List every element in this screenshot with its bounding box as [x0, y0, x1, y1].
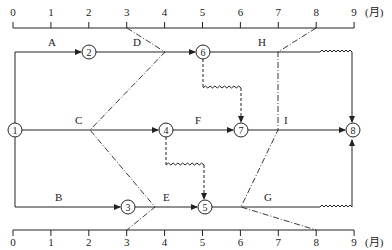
node-label: 2 [87, 47, 92, 58]
activity-G: G [212, 140, 352, 207]
activity-A: A [15, 36, 81, 123]
activity-label-A: A [48, 36, 56, 48]
activity-label-C: C [75, 114, 82, 126]
top-time-axis: 0123456789 (月) [10, 6, 383, 28]
top-tick-label: 1 [48, 6, 54, 18]
dummy-wave-6-7 [203, 86, 241, 88]
bottom-time-axis: 0123456789 (月) [10, 230, 383, 249]
bottom-axis-unit: (月) [365, 236, 384, 249]
bottom-tick-label: 5 [200, 236, 206, 248]
bottom-tick-label: 9 [351, 236, 357, 248]
activity-I: I [248, 114, 345, 130]
top-tick-label: 5 [200, 6, 206, 18]
activity-F: F [173, 114, 233, 130]
activity-label-G: G [264, 191, 272, 203]
activity-label-E: E [163, 191, 170, 203]
free-float-wave-H [320, 50, 352, 52]
bottom-tick-label: 6 [238, 236, 244, 248]
node-label: 7 [239, 125, 244, 136]
top-axis-unit: (月) [365, 6, 384, 19]
dummy-wave-4-5 [166, 163, 204, 165]
top-tick-label: 6 [238, 6, 244, 18]
top-tick-label: 3 [124, 6, 130, 18]
node-label: 5 [203, 202, 208, 213]
dummy-6-7 [203, 59, 241, 122]
node-4: 4 [159, 123, 173, 137]
node-6: 6 [196, 45, 210, 59]
top-tick-label: 8 [313, 6, 319, 18]
activity-B: B [15, 137, 120, 207]
activity-label-I: I [284, 114, 288, 126]
node-label: 4 [164, 125, 169, 136]
node-label: 3 [126, 202, 131, 213]
node-8: 8 [346, 123, 360, 137]
node-2: 2 [82, 45, 96, 59]
activity-label-D: D [133, 36, 141, 48]
top-tick-label: 7 [276, 6, 282, 18]
activity-label-H: H [258, 36, 266, 48]
node-label: 6 [201, 47, 206, 58]
node-7: 7 [234, 123, 248, 137]
network-diagram: 0123456789 (月) 0123456789 (月) A B C D E … [0, 0, 392, 250]
bottom-tick-label: 4 [162, 236, 168, 248]
check-line-month-8 [241, 28, 316, 230]
bottom-tick-label: 3 [124, 236, 130, 248]
activity-label-B: B [55, 191, 62, 203]
top-tick-label: 2 [86, 6, 92, 18]
activity-label-F: F [195, 114, 201, 126]
top-tick-label: 9 [351, 6, 357, 18]
bottom-tick-label: 1 [48, 236, 54, 248]
activity-H: H [210, 36, 352, 122]
bottom-tick-label: 2 [86, 236, 92, 248]
bottom-tick-label: 8 [313, 236, 319, 248]
free-float-wave-G [320, 205, 352, 207]
node-label: 1 [13, 125, 18, 136]
node-5: 5 [198, 200, 212, 214]
node-1: 1 [8, 123, 22, 137]
node-3: 3 [121, 200, 135, 214]
dummy-4-5 [166, 137, 204, 199]
top-tick-label: 0 [10, 6, 16, 18]
top-tick-label: 4 [162, 6, 168, 18]
bottom-tick-label: 7 [276, 236, 282, 248]
activity-D: D [96, 36, 195, 52]
activity-C: C [22, 114, 158, 130]
node-label: 8 [351, 125, 356, 136]
bottom-tick-label: 0 [10, 236, 16, 248]
activity-E: E [135, 191, 197, 207]
